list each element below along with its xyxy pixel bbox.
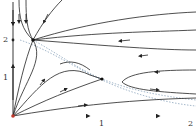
trajectories <box>13 0 196 116</box>
phase-portrait <box>0 0 196 129</box>
y-tick-1: 1 <box>3 74 8 82</box>
saddle-point <box>100 77 103 80</box>
nullclines <box>20 40 196 106</box>
origin-point <box>11 114 15 118</box>
x-tick-2: 2 <box>188 120 193 128</box>
y-axis-flow <box>12 2 15 116</box>
y-tick-2: 2 <box>3 36 8 44</box>
x-tick-1: 1 <box>99 120 104 128</box>
stable-node-point <box>31 38 35 42</box>
